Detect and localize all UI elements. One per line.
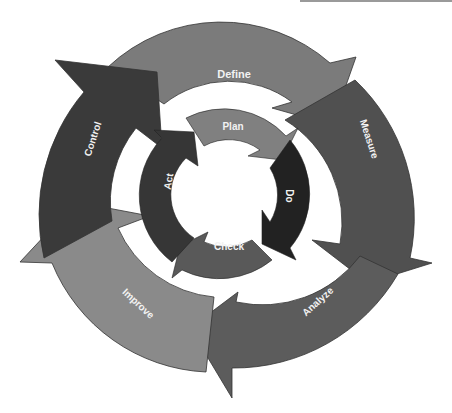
label-do: Do	[284, 189, 295, 202]
arrow-act[interactable]	[139, 130, 198, 262]
label-check: Check	[214, 241, 244, 252]
label-act: Act	[162, 172, 176, 190]
label-plan: Plan	[222, 121, 243, 132]
cycle-diagram: Define Measure Analyze Improve Control P…	[0, 0, 452, 413]
label-define: Define	[217, 68, 251, 80]
